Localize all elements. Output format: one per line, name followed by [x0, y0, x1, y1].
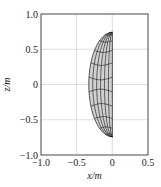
y-axis-label: z/m: [1, 78, 12, 93]
surface-mesh: [89, 32, 113, 136]
x-tick-label: 0: [110, 157, 115, 168]
x-tick-label: −0.5: [68, 157, 86, 168]
y-tick-label: 1.0: [26, 9, 39, 20]
x-axis-label: x/m: [86, 170, 101, 181]
y-tick-label: 0: [33, 79, 38, 90]
chart: −1.0−0.500.5−1.0−0.500.51.0 x/m z/m: [0, 0, 161, 187]
y-tick-label: −0.5: [20, 114, 38, 125]
y-tick-label: 0.5: [26, 44, 39, 55]
x-tick-label: 0.5: [142, 157, 155, 168]
tick-labels: −1.0−0.500.5−1.0−0.500.51.0: [20, 9, 154, 169]
y-tick-label: −1.0: [20, 150, 38, 161]
